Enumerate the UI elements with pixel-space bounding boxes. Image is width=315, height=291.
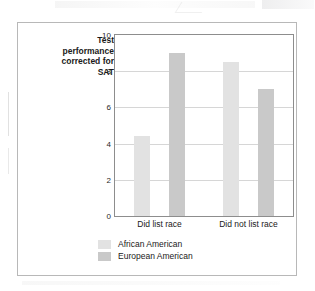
x-axis-labels: Did list raceDid not list race [114, 219, 294, 233]
y-axis-title-line: corrected for [36, 56, 114, 67]
chart-legend: African AmericanEuropean American [18, 239, 296, 261]
bar [134, 136, 150, 216]
legend-item: African American [98, 239, 216, 249]
y-axis-title: Testperformancecorrected forSAT [36, 35, 114, 77]
legend-label: European American [118, 251, 193, 261]
scan-artifact-top-edge [55, 1, 255, 8]
bar [258, 89, 274, 216]
legend-swatch [98, 252, 111, 261]
bar-series-layer [115, 35, 293, 216]
y-axis-title-line: SAT [36, 67, 114, 78]
scan-artifact-left-mark-1 [8, 92, 9, 136]
x-axis-category-label: Did not list race [219, 219, 278, 229]
y-axis-title-line: performance [36, 46, 114, 57]
y-axis-tick-label: 8 [107, 67, 111, 76]
y-axis-tick-label: 10 [102, 31, 111, 40]
y-axis-tick-label: 0 [107, 212, 111, 221]
scan-artifact-left-mark-2 [8, 148, 9, 174]
y-axis-tick-label: 6 [107, 103, 111, 112]
bar [223, 62, 239, 216]
figure-card: Testperformancecorrected forSAT 0246810 … [17, 22, 297, 276]
scan-artifact-top-right [262, 0, 314, 9]
x-axis-category-label: Did list race [137, 219, 181, 229]
scan-artifact-chevron [175, 2, 209, 13]
plot-area: 0246810 [114, 34, 294, 217]
legend-swatch [98, 240, 111, 249]
y-axis-tick-label: 2 [107, 175, 111, 184]
legend-item: European American [98, 251, 216, 261]
y-axis-tick-label: 4 [107, 139, 111, 148]
legend-label: African American [118, 239, 182, 249]
bar [169, 53, 185, 216]
scan-artifact-bottom-edge [22, 281, 280, 285]
